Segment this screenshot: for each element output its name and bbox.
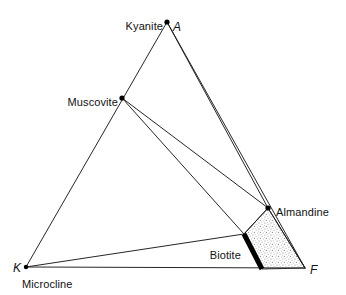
mineral-label-kyanite: Kyanite [126,21,163,32]
tie-line-muscovite-biotite [122,98,244,234]
vertex-f-label: F [310,264,317,276]
phase-point-microcline [24,265,28,269]
phase-point-muscovite [119,95,124,100]
diagram-canvas [0,0,346,295]
mineral-label-almandine: Almandine [276,207,329,218]
vertex-a-label: A [173,21,181,33]
akf-phase-diagram: KyaniteMuscoviteAlmandineMicroclineBioti… [0,0,346,295]
tie-line-A-F-edge [167,22,305,268]
mineral-label-biotite: Biotite [210,250,241,261]
phase-point-almandine [265,205,270,210]
tie-line-A-K-edge [26,22,167,267]
vertex-k-label: K [13,262,21,274]
mineral-label-microcline: Microcline [22,279,73,290]
tie-line-muscovite-almandine [122,98,268,208]
phase-point-kyanite [164,19,169,24]
mineral-label-muscovite: Muscovite [68,97,118,108]
